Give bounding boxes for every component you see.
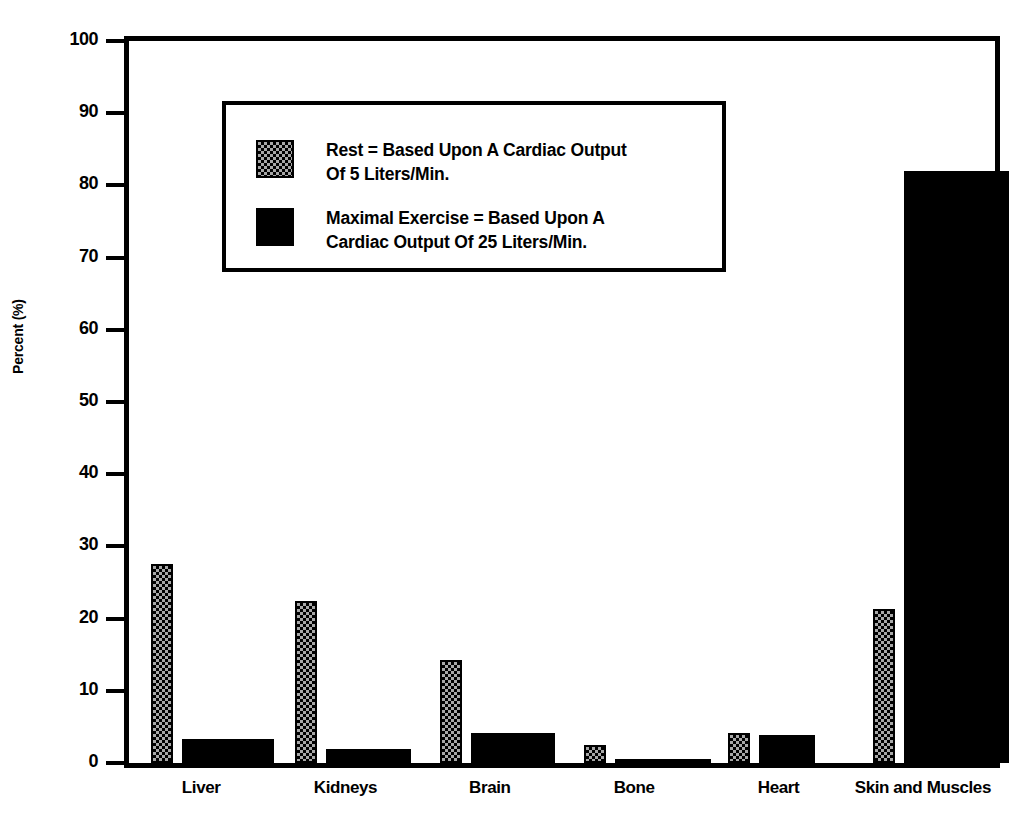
legend-label-rest-line2: Of 5 Liters/Min. — [326, 162, 627, 186]
y-tick-label: 90 — [79, 101, 98, 122]
bar-bone-maximal-exercise — [615, 759, 711, 763]
y-tick-mark — [106, 400, 124, 404]
y-tick-label: 60 — [79, 318, 98, 339]
y-tick-label: 10 — [79, 679, 98, 700]
y-tick-label: 0 — [88, 751, 98, 772]
y-tick-mark — [106, 328, 124, 332]
y-tick-mark — [106, 761, 124, 765]
legend-label-rest: Rest = Based Upon A Cardiac Output Of 5 … — [326, 138, 627, 186]
bar-brain-rest — [440, 660, 462, 763]
x-axis-labels: LiverKidneysBrainBoneHeartSkin and Muscl… — [124, 778, 1000, 808]
y-tick-label: 100 — [69, 29, 98, 50]
y-tick-mark — [106, 111, 124, 115]
x-axis-label-kidneys: Kidneys — [314, 778, 377, 798]
legend-label-exercise-line1: Maximal Exercise = Based Upon A — [326, 208, 605, 228]
y-tick-mark — [106, 689, 124, 693]
bar-heart-maximal-exercise — [759, 735, 815, 763]
x-axis-label-liver: Liver — [182, 778, 221, 798]
y-tick-label: 70 — [79, 246, 98, 267]
legend-item-rest: Rest = Based Upon A Cardiac Output Of 5 … — [256, 138, 627, 186]
bar-liver-rest — [151, 564, 173, 763]
legend-swatch-exercise-icon — [256, 208, 294, 246]
x-axis-label-brain: Brain — [469, 778, 510, 798]
y-tick-mark — [106, 617, 124, 621]
bar-skin-and-muscles-rest — [873, 609, 895, 763]
x-axis-label-skin-and-muscles: Skin and Muscles — [855, 778, 991, 798]
y-tick-label: 20 — [79, 607, 98, 628]
y-tick-label: 50 — [79, 390, 98, 411]
bar-skin-and-muscles-maximal-exercise — [904, 171, 1009, 763]
y-tick-mark — [106, 256, 124, 260]
legend-item-maximal-exercise: Maximal Exercise = Based Upon A Cardiac … — [256, 206, 605, 254]
chart-legend: Rest = Based Upon A Cardiac Output Of 5 … — [222, 101, 726, 272]
y-tick-mark — [106, 183, 124, 187]
y-tick-mark — [106, 39, 124, 43]
bar-kidneys-rest — [295, 601, 317, 763]
legend-swatch-rest-icon — [256, 140, 294, 178]
y-axis-ticks: 0102030405060708090100 — [0, 0, 124, 833]
bar-liver-maximal-exercise — [182, 739, 274, 763]
bar-bone-rest — [584, 745, 606, 763]
bar-chart-figure: Percent (%) 0102030405060708090100 Liver… — [0, 0, 1025, 833]
legend-label-exercise-line2: Cardiac Output Of 25 Liters/Min. — [326, 230, 605, 254]
x-axis-label-heart: Heart — [758, 778, 799, 798]
bar-heart-rest — [728, 733, 750, 763]
y-tick-label: 80 — [79, 173, 98, 194]
bar-brain-maximal-exercise — [471, 733, 555, 763]
legend-label-rest-line1: Rest = Based Upon A Cardiac Output — [326, 140, 627, 160]
y-tick-mark — [106, 544, 124, 548]
y-tick-mark — [106, 472, 124, 476]
legend-label-exercise: Maximal Exercise = Based Upon A Cardiac … — [326, 206, 605, 254]
bar-kidneys-maximal-exercise — [326, 749, 411, 763]
y-tick-label: 40 — [79, 462, 98, 483]
y-tick-label: 30 — [79, 534, 98, 555]
x-axis-label-bone: Bone — [614, 778, 655, 798]
